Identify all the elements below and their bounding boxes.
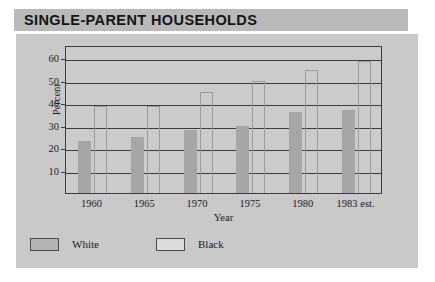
gridline [66, 173, 381, 174]
y-axis-tick-label: 50 [31, 77, 59, 87]
legend-swatch-white [30, 238, 59, 251]
gridline [66, 105, 381, 106]
y-axis-tick-label: 60 [31, 54, 59, 64]
gridline [66, 60, 381, 61]
bar-black-1970 [200, 92, 213, 193]
legend-label-white: White [72, 238, 99, 251]
gridline [66, 128, 381, 129]
bar-white-1965 [131, 137, 144, 193]
x-axis-tick-label: 1983 est. [321, 198, 391, 209]
legend-label-black: Black [198, 238, 224, 251]
gridline [66, 150, 381, 151]
y-axis-tick-label: 40 [31, 99, 59, 109]
bar-black-1975 [252, 81, 265, 193]
bar-white-1983-est- [342, 110, 355, 193]
y-axis-tick-label: 10 [31, 167, 59, 177]
figure-card: SINGLE-PARENT HOUSEHOLDS Percent 1020304… [0, 0, 435, 282]
gridline [66, 83, 381, 84]
page-title: SINGLE-PARENT HOUSEHOLDS [24, 10, 404, 30]
x-axis-label: Year [65, 212, 382, 223]
bar-white-1980 [289, 112, 302, 193]
legend-swatch-black [156, 238, 185, 251]
bar-white-1960 [78, 141, 91, 193]
bar-black-1965 [147, 106, 160, 193]
y-axis-tick-label: 20 [31, 144, 59, 154]
bar-black-1980 [305, 70, 318, 193]
bar-black-1983-est- [358, 61, 371, 193]
bar-white-1970 [184, 130, 197, 193]
y-axis-tick-label: 30 [31, 122, 59, 132]
plot-area [65, 46, 382, 194]
bar-black-1960 [94, 106, 107, 193]
bar-white-1975 [236, 126, 249, 193]
